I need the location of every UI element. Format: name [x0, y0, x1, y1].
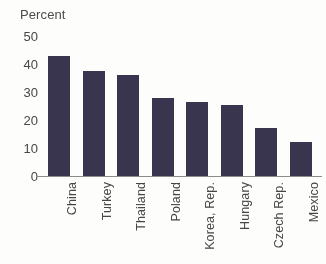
- bar-slot: [44, 30, 74, 176]
- y-axis-tick-10: 10: [12, 142, 38, 155]
- y-axis-tick-30: 30: [12, 86, 38, 99]
- bar[interactable]: [290, 142, 312, 176]
- bar-slot: [113, 30, 143, 176]
- bar[interactable]: [186, 102, 208, 176]
- bar[interactable]: [48, 56, 70, 176]
- bar[interactable]: [221, 105, 243, 176]
- bar[interactable]: [117, 75, 139, 176]
- bar-chart: Percent 50403020100 ChinaTurkeyThailandP…: [0, 0, 326, 264]
- x-axis-label-czech-rep: Czech Rep.: [272, 182, 286, 248]
- x-axis-label-hungary: Hungary: [238, 182, 252, 230]
- x-axis-label-turkey: Turkey: [100, 182, 114, 220]
- bar[interactable]: [83, 71, 105, 176]
- bar-slot: [79, 30, 109, 176]
- y-axis-tick-labels: 50403020100: [8, 0, 38, 264]
- plot-area: [44, 30, 322, 176]
- x-axis-baseline: [36, 176, 322, 177]
- x-axis-label-poland: Poland: [169, 182, 183, 222]
- bar-slot: [286, 30, 316, 176]
- bar-slot: [182, 30, 212, 176]
- y-axis-tick-20: 20: [12, 114, 38, 127]
- x-axis-label-mexico: Mexico: [307, 182, 321, 222]
- y-axis-tick-40: 40: [12, 58, 38, 71]
- y-axis-tick-0: 0: [12, 170, 38, 183]
- x-axis-label-china: China: [65, 182, 79, 215]
- bar-slot: [148, 30, 178, 176]
- x-axis-label-korea-rep: Korea, Rep.: [203, 182, 217, 250]
- bar[interactable]: [152, 98, 174, 176]
- y-axis-tick-50: 50: [12, 30, 38, 43]
- bar-slot: [251, 30, 281, 176]
- x-axis-label-thailand: Thailand: [134, 182, 148, 231]
- bar[interactable]: [255, 128, 277, 176]
- bar-slot: [217, 30, 247, 176]
